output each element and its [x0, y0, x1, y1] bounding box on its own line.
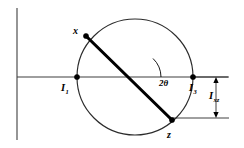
label-point-z: z: [167, 130, 171, 140]
label-point-x: x: [73, 26, 78, 36]
point-marker-x: [83, 33, 88, 38]
mohrs-circle-figure: x z I1 I3 2θ Ixz: [0, 0, 244, 148]
arrow-head-up-icon: [213, 77, 218, 83]
point-marker-i1: [74, 74, 79, 79]
label-principal-i3-sub: 3: [193, 88, 196, 95]
point-marker-i3: [190, 74, 195, 79]
label-principal-i1-sub: 1: [65, 88, 68, 95]
label-principal-i3: I3: [189, 83, 196, 94]
label-product-inertia-sub: xz: [213, 96, 219, 103]
angle-arc-2theta: [153, 59, 161, 78]
label-principal-i1: I1: [61, 83, 68, 94]
label-product-inertia: Ixz: [209, 91, 219, 102]
figure-canvas: [0, 0, 244, 148]
point-marker-z: [169, 117, 174, 122]
arrow-head-down-icon: [213, 112, 218, 118]
label-angle-2theta: 2θ: [159, 79, 168, 88]
